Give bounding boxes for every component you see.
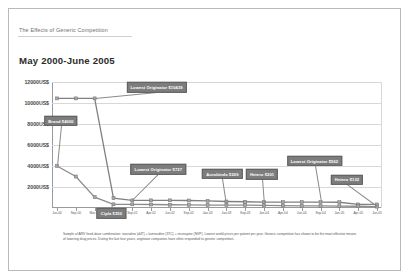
x-tick-label: Apr-05	[353, 211, 363, 215]
data-point-marker	[150, 203, 153, 206]
annotation-callout: Lowest Originator $727	[131, 164, 186, 174]
data-point-marker	[112, 197, 115, 200]
annotation-callout: Brand $4000	[44, 116, 77, 126]
x-tick-mark	[57, 208, 58, 211]
y-tick-label: 4000US$	[27, 163, 49, 169]
data-point-marker	[187, 203, 190, 206]
page-title: May 2000-June 2005	[19, 55, 115, 66]
series-line	[57, 98, 377, 204]
x-tick-mark	[339, 208, 340, 211]
y-tick-label: 10000US$	[24, 100, 49, 106]
annotation-callout: Hetero $132	[331, 174, 363, 184]
data-point-marker	[168, 199, 171, 202]
x-tick-label: Jun-04	[297, 211, 307, 215]
y-tick-label: 2000US$	[27, 184, 49, 190]
x-tick-label: Sep-01	[127, 211, 137, 215]
data-point-marker	[338, 205, 341, 208]
page-root: The Effects of Generic Competition May 2…	[0, 0, 411, 280]
x-tick-mark	[189, 208, 190, 211]
data-point-marker	[357, 205, 360, 208]
annotation-callout: Hetero $201	[246, 169, 278, 179]
data-point-marker	[244, 204, 247, 207]
x-tick-label: Jan-04	[259, 211, 269, 215]
annotation-callout: Aurobindo $209	[202, 169, 242, 179]
y-tick-label: 6000US$	[27, 142, 49, 148]
x-tick-label: Apr-02	[146, 211, 156, 215]
x-tick-label: Jan-03	[203, 211, 213, 215]
x-tick-label: Sep-04	[315, 211, 325, 215]
data-point-marker	[74, 175, 77, 178]
data-point-marker	[206, 199, 209, 202]
x-tick-label: Jun-00	[52, 211, 62, 215]
eyebrow-divider	[18, 36, 132, 37]
x-tick-label: Sep-03	[240, 211, 250, 215]
data-point-marker	[93, 196, 96, 199]
data-point-marker	[56, 97, 59, 100]
x-tick-mark	[321, 208, 322, 211]
data-point-marker	[300, 201, 303, 204]
annotation-callout: Lowest Originator $562	[287, 156, 342, 166]
x-tick-label: Jan-05	[334, 211, 344, 215]
x-tick-mark	[76, 208, 77, 211]
x-tick-mark	[245, 208, 246, 211]
x-tick-label: Sep-00	[71, 211, 81, 215]
series-layer	[52, 82, 382, 208]
data-point-marker	[281, 204, 284, 207]
data-point-marker	[168, 203, 171, 206]
x-tick-label: Jun-05	[372, 211, 382, 215]
x-tick-label: Jun-03	[222, 211, 232, 215]
data-point-marker	[319, 204, 322, 207]
data-point-marker	[131, 203, 134, 206]
x-tick-mark	[264, 208, 265, 211]
x-tick-mark	[170, 208, 171, 211]
x-tick-label: Sep-02	[184, 211, 194, 215]
x-tick-label: Jun-02	[165, 211, 175, 215]
x-tick-mark	[302, 208, 303, 211]
data-point-marker	[74, 97, 77, 100]
chart-footnote: Sample of ARV fixed-dose combination: st…	[63, 232, 359, 243]
data-point-marker	[300, 204, 303, 207]
y-tick-label: 12000US$	[24, 79, 49, 85]
x-tick-mark	[377, 208, 378, 211]
x-tick-label: Apr-04	[278, 211, 288, 215]
x-tick-mark	[226, 208, 227, 211]
chart-plot-area: 2000US$4000US$6000US$8000US$10000US$1200…	[52, 82, 382, 208]
x-tick-mark	[208, 208, 209, 211]
data-point-marker	[338, 201, 341, 204]
x-tick-mark	[151, 208, 152, 211]
data-point-marker	[244, 200, 247, 203]
data-point-marker	[281, 201, 284, 204]
eyebrow-label: The Effects of Generic Competition	[19, 27, 108, 33]
data-point-marker	[150, 199, 153, 202]
annotation-callout: Cipla $350	[97, 208, 126, 218]
x-tick-mark	[132, 208, 133, 211]
data-point-marker	[187, 199, 190, 202]
x-tick-mark	[283, 208, 284, 211]
annotation-callout: Lowest Originator $10439	[127, 82, 187, 92]
data-point-marker	[206, 204, 209, 207]
x-tick-mark	[95, 208, 96, 211]
x-tick-mark	[358, 208, 359, 211]
